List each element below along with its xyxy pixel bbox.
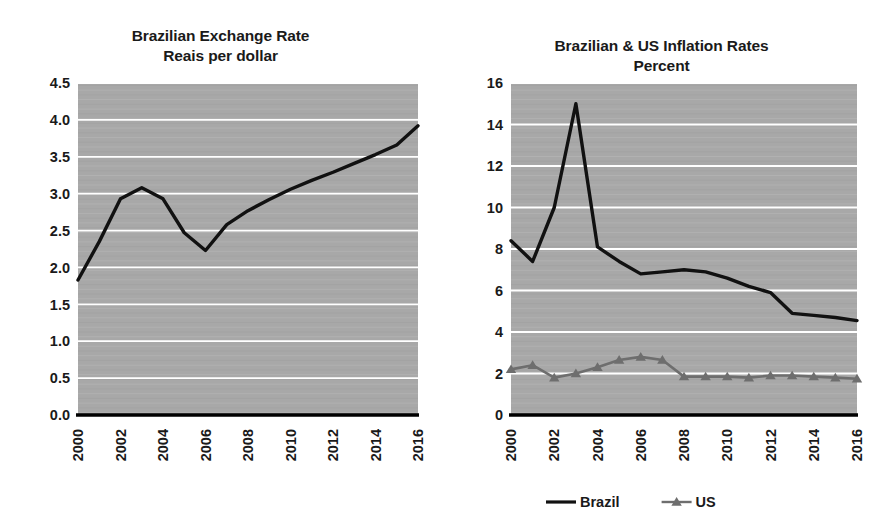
x-tick-label: 2006 xyxy=(633,429,649,461)
y-tick-label: 6 xyxy=(495,283,503,299)
x-tick-label: 2002 xyxy=(113,429,129,461)
y-tick-label: 3.5 xyxy=(50,149,70,165)
x-tick-label: 2006 xyxy=(198,429,214,461)
y-tick-label: 12 xyxy=(487,158,503,174)
x-axis-ticks: 200020022004200620082010201220142016 xyxy=(503,429,865,461)
y-tick-label: 8 xyxy=(495,241,503,257)
y-tick-label: 2 xyxy=(495,366,503,382)
chart-legend: BrazilUS xyxy=(546,494,716,510)
y-tick-label: 0.5 xyxy=(50,370,70,386)
x-tick-label: 2012 xyxy=(325,429,341,461)
x-tick-label: 2014 xyxy=(368,429,384,461)
chart-svg-inflation-rates: 0246810121416200020022004200620082010201… xyxy=(441,0,882,529)
x-tick-label: 2000 xyxy=(70,429,86,461)
x-tick-label: 2004 xyxy=(155,429,171,461)
chart-panel-exchange-rate: Brazilian Exchange Rate Reais per dollar… xyxy=(0,0,441,529)
y-tick-label: 0.0 xyxy=(50,407,70,423)
y-tick-label: 4.5 xyxy=(50,75,70,91)
x-tick-label: 2010 xyxy=(283,429,299,461)
chart-panel-inflation-rates: Brazilian & US Inflation Rates Percent 0… xyxy=(441,0,882,529)
y-axis-ticks: 0.00.51.01.52.02.53.03.54.04.5 xyxy=(50,75,70,423)
x-tick-label: 2000 xyxy=(503,429,519,461)
x-tick-label: 2016 xyxy=(849,429,865,461)
y-tick-label: 1.0 xyxy=(50,333,70,349)
x-tick-label: 2002 xyxy=(546,429,562,461)
x-tick-label: 2012 xyxy=(763,429,779,461)
legend-label: Brazil xyxy=(580,494,620,510)
y-tick-label: 4 xyxy=(495,324,503,340)
chart-svg-exchange-rate: 0.00.51.01.52.02.53.03.54.04.52000200220… xyxy=(0,0,441,529)
x-tick-label: 2010 xyxy=(719,429,735,461)
y-tick-label: 0 xyxy=(495,407,503,423)
x-tick-label: 2016 xyxy=(410,429,426,461)
y-tick-label: 2.5 xyxy=(50,223,70,239)
legend-label: US xyxy=(696,494,716,510)
y-tick-label: 16 xyxy=(487,75,503,91)
y-tick-label: 2.0 xyxy=(50,260,70,276)
y-tick-label: 3.0 xyxy=(50,186,70,202)
y-tick-label: 1.5 xyxy=(50,297,70,313)
x-tick-label: 2008 xyxy=(240,429,256,461)
y-tick-label: 4.0 xyxy=(50,112,70,128)
y-axis-ticks: 0246810121416 xyxy=(487,75,503,423)
figure-container: Brazilian Exchange Rate Reais per dollar… xyxy=(0,0,882,529)
x-tick-label: 2004 xyxy=(590,429,606,461)
x-axis-ticks: 200020022004200620082010201220142016 xyxy=(70,429,426,461)
y-tick-label: 14 xyxy=(487,117,503,133)
x-tick-label: 2014 xyxy=(806,429,822,461)
y-tick-label: 10 xyxy=(487,200,503,216)
x-tick-label: 2008 xyxy=(676,429,692,461)
